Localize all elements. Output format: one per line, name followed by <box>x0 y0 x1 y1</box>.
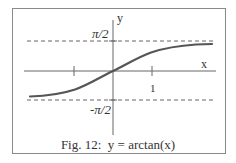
figure-caption: Fig. 12: y = arctan(x) <box>0 137 236 153</box>
y-axis-label: y <box>117 11 123 25</box>
x-axis-label: x <box>201 57 207 71</box>
arctan-curve <box>30 44 212 97</box>
x-tick-label-1: 1 <box>150 82 156 94</box>
upper-asymptote-label: π/2 <box>92 26 109 41</box>
lower-asymptote-label: -π/2 <box>90 102 111 117</box>
